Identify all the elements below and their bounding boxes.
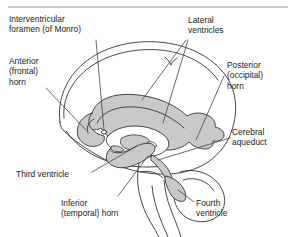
interventricular-foramen-shape: [101, 130, 106, 134]
cerebellum-inner-line: [183, 179, 214, 191]
anatomy-figure: Interventricular foramen (of Monro) Ante…: [0, 0, 296, 237]
leader-lateral-ventricles-a: [142, 40, 186, 100]
brain-ventricles-illustration: [0, 0, 296, 237]
label-inferior-horn: Inferior (temporal) horn: [61, 198, 119, 219]
label-third-ventricle: Third ventricle: [16, 169, 69, 179]
label-posterior-horn: Posterior (occipital) horn: [227, 60, 263, 91]
label-cerebral-aqueduct: Cerebral aqueduct: [232, 127, 267, 148]
leader-anterior-horn: [46, 88, 86, 130]
label-anterior-horn: Anterior (frontal) horn: [9, 56, 39, 87]
label-lateral-ventricles: Lateral ventricles: [188, 15, 224, 36]
label-fourth-ventricle: Fourth ventricle: [196, 198, 227, 219]
label-interventricular-foramen: Interventricular foramen (of Monro): [9, 14, 81, 35]
